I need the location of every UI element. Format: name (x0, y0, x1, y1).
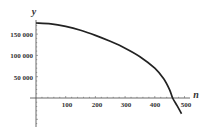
x-tick-label-500: 500 (181, 101, 192, 109)
line-chart: 100 200 300 400 500 150 000 100 000 50 0… (0, 0, 208, 131)
x-tick-label-100: 100 (62, 101, 73, 109)
y-tick-label-50000: 50 000 (14, 74, 34, 82)
x-tick-label-300: 300 (121, 101, 132, 109)
y-tick-label-150000: 150 000 (10, 31, 33, 39)
y-axis-label: y (31, 6, 37, 17)
x-tick-label-200: 200 (92, 101, 103, 109)
x-axis-label: n (193, 89, 199, 100)
y-tick-label-100000: 100 000 (10, 52, 33, 60)
x-tick-label-400: 400 (150, 101, 161, 109)
